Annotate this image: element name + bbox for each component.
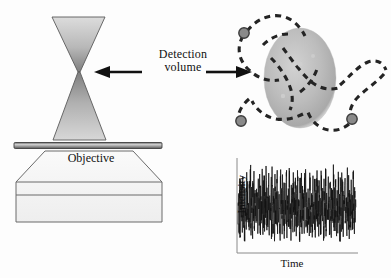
x-axis-label-time: Time <box>262 257 322 269</box>
objective-label: Objective <box>56 152 126 165</box>
excitation-cone-upper <box>52 17 105 72</box>
arrow-left-icon <box>94 66 142 78</box>
detection-volume-label-line1: Detection <box>146 48 220 61</box>
figure-canvas: Detection volume Objective Intensity Tim… <box>0 0 391 278</box>
coverslip-bar <box>14 143 162 149</box>
y-axis-label-intensity: Intensity <box>235 159 247 229</box>
cell-ellipse <box>264 28 336 128</box>
figure-graphics <box>0 0 391 278</box>
detection-volume-label: Detection volume <box>146 48 220 75</box>
excitation-cone-lower <box>53 72 106 140</box>
detection-volume-label-line2: volume <box>146 61 220 74</box>
intensity-trace-line <box>238 165 356 242</box>
intensity-time-plot <box>237 158 358 253</box>
